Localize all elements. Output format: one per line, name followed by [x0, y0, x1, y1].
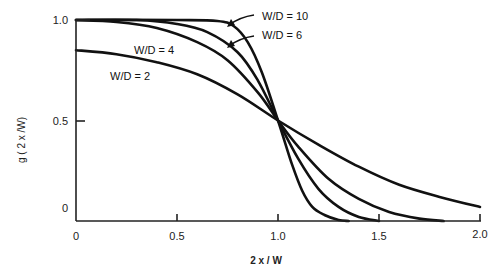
- curve-w-d-4: [76, 20, 444, 221]
- label-wd-4: W/D = 4: [134, 44, 174, 56]
- x-tick-label-1.0: 1.0: [270, 230, 285, 242]
- label-wd-2: W/D = 2: [110, 70, 150, 82]
- label-wd-6: W/D = 6: [262, 29, 302, 41]
- label-wd-10: W/D = 10: [262, 10, 308, 22]
- x-tick-label-2.0: 2.0: [472, 228, 487, 240]
- curve-w-d-6: [76, 20, 379, 221]
- x-axis-title: 2 x / W: [250, 255, 282, 266]
- x-tick-label-0: 0: [73, 230, 79, 242]
- x-tick-label-0.5: 0.5: [169, 230, 184, 242]
- y-tick-label-0: 0: [62, 202, 68, 214]
- y-tick-label-1.0: 1.0: [53, 14, 68, 26]
- x-tick-label-1.5: 1.5: [371, 230, 386, 242]
- y-axis-title: g ( 2 x /W): [16, 117, 27, 163]
- line-chart: 1.0 0.5 0 0 0.5 1.0 1.5 2.0 2 x / W g ( …: [0, 0, 503, 277]
- y-tick-label-0.5: 0.5: [53, 115, 68, 127]
